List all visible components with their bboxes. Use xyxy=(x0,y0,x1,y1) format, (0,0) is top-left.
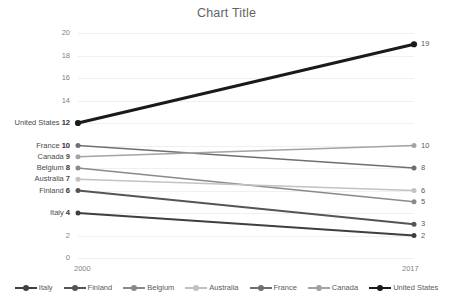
y-axis-tick-label: 20 xyxy=(40,28,70,37)
series-line xyxy=(78,191,414,225)
series-line xyxy=(78,44,414,123)
series-line xyxy=(78,146,414,169)
gridline-0 xyxy=(78,258,414,259)
series-marker xyxy=(76,154,81,159)
series-line xyxy=(78,146,414,157)
series-australia xyxy=(76,177,417,193)
series-marker xyxy=(412,166,417,171)
series-marker xyxy=(76,143,81,148)
left-series-label: United States 12 xyxy=(0,118,70,127)
legend-key-icon xyxy=(250,283,272,292)
left-label-name: Italy xyxy=(50,208,66,217)
right-series-value-label: 5 xyxy=(421,197,425,206)
right-series-value-label: 8 xyxy=(421,163,425,172)
legend-key-icon xyxy=(308,283,330,292)
x-axis-tick-label: 2000 xyxy=(74,264,91,273)
legend-item-united-states[interactable]: United States xyxy=(369,283,438,292)
left-label-name: Canada xyxy=(37,152,65,161)
series-marker xyxy=(76,177,81,182)
plot-area xyxy=(78,33,414,258)
legend-key-icon xyxy=(64,283,86,292)
right-series-value-label: 2 xyxy=(421,231,425,240)
y-axis-tick-label: 0 xyxy=(40,253,70,262)
left-series-label: Finland 6 xyxy=(0,186,70,195)
left-label-value: 4 xyxy=(66,208,70,217)
legend-marker-dot-icon xyxy=(258,285,264,291)
legend-marker-dot-icon xyxy=(131,285,137,291)
left-label-value: 10 xyxy=(62,141,70,150)
chart-legend: ItalyFinlandBelgiumAustraliaFranceCanada… xyxy=(0,283,453,292)
series-marker xyxy=(412,188,417,193)
right-series-value-label: 10 xyxy=(421,141,429,150)
left-label-name: Australia xyxy=(35,174,66,183)
chart-title: Chart Title xyxy=(0,6,453,20)
left-label-name: Finland xyxy=(39,186,66,195)
left-label-value: 6 xyxy=(66,186,70,195)
series-united-states xyxy=(75,41,417,126)
y-axis-tick-label: 16 xyxy=(40,73,70,82)
legend-label: Finland xyxy=(88,283,113,292)
legend-item-france[interactable]: France xyxy=(250,283,297,292)
legend-item-finland[interactable]: Finland xyxy=(64,283,113,292)
chart-container: Chart Title 02468101214161820 20002017 U… xyxy=(0,0,453,305)
legend-item-australia[interactable]: Australia xyxy=(185,283,238,292)
legend-label: Australia xyxy=(209,283,238,292)
series-finland xyxy=(76,188,417,227)
series-marker xyxy=(412,222,417,227)
series-marker xyxy=(412,233,417,238)
left-label-value: 12 xyxy=(62,118,70,127)
legend-label: France xyxy=(274,283,297,292)
left-label-value: 9 xyxy=(66,152,70,161)
series-line xyxy=(78,179,414,190)
legend-item-canada[interactable]: Canada xyxy=(308,283,358,292)
series-marker xyxy=(411,41,417,47)
left-series-label: France 10 xyxy=(0,141,70,150)
left-label-name: United States xyxy=(15,118,62,127)
legend-marker-dot-icon xyxy=(193,285,199,291)
legend-marker-dot-icon xyxy=(316,285,322,291)
series-marker xyxy=(412,199,417,204)
left-label-value: 8 xyxy=(66,163,70,172)
legend-key-icon xyxy=(123,283,145,292)
legend-label: United States xyxy=(393,283,438,292)
series-italy xyxy=(76,211,417,239)
legend-label: Belgium xyxy=(147,283,174,292)
legend-key-icon xyxy=(369,283,391,292)
left-label-name: Belgium xyxy=(37,163,66,172)
series-marker xyxy=(412,143,417,148)
y-axis-tick-label: 2 xyxy=(40,231,70,240)
left-label-value: 7 xyxy=(66,174,70,183)
y-axis-tick-label: 18 xyxy=(40,51,70,60)
series-layer xyxy=(78,33,414,258)
series-marker xyxy=(76,188,81,193)
legend-marker-dot-icon xyxy=(377,285,383,291)
left-series-label: Italy 4 xyxy=(0,208,70,217)
legend-key-icon xyxy=(15,283,37,292)
legend-item-belgium[interactable]: Belgium xyxy=(123,283,174,292)
series-marker xyxy=(75,120,81,126)
left-series-label: Canada 9 xyxy=(0,152,70,161)
left-series-label: Australia 7 xyxy=(0,174,70,183)
legend-key-icon xyxy=(185,283,207,292)
series-line xyxy=(78,213,414,236)
legend-label: Canada xyxy=(332,283,358,292)
series-marker xyxy=(76,166,81,171)
legend-marker-dot-icon xyxy=(72,285,78,291)
legend-item-italy[interactable]: Italy xyxy=(15,283,53,292)
y-axis-tick-label: 14 xyxy=(40,96,70,105)
legend-label: Italy xyxy=(39,283,53,292)
legend-marker-dot-icon xyxy=(23,285,29,291)
right-series-value-label: 3 xyxy=(421,219,425,228)
left-series-label: Belgium 8 xyxy=(0,163,70,172)
left-label-name: France xyxy=(36,141,61,150)
series-marker xyxy=(76,211,81,216)
right-series-value-label: 19 xyxy=(421,39,429,48)
right-series-value-label: 6 xyxy=(421,186,425,195)
x-axis-tick-label: 2017 xyxy=(402,264,419,273)
